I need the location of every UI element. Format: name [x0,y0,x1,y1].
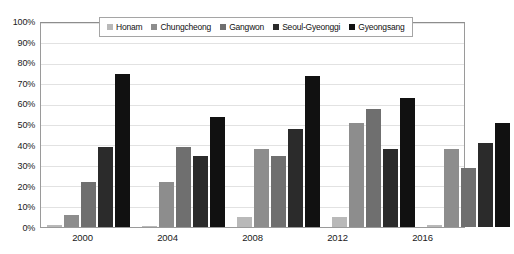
x-axis-tick-label: 2016 [380,232,465,250]
legend-item[interactable]: Seoul-Gyeonggi [273,22,340,32]
x-axis-tick-label: 2004 [125,232,210,250]
gridline [41,227,464,228]
legend-swatch-icon [349,24,355,30]
bar[interactable] [305,76,320,227]
bar-group [136,23,231,227]
bar[interactable] [176,147,191,227]
bar[interactable] [64,215,79,227]
bar[interactable] [461,168,476,227]
bar-group [326,23,421,227]
bar[interactable] [427,225,442,227]
bar[interactable] [98,147,113,227]
bar[interactable] [444,149,459,227]
bar[interactable] [332,217,347,227]
y-axis-tick-label: 40% [18,141,35,151]
x-axis-tick-label: 2000 [40,232,125,250]
y-axis-tick-label: 70% [18,79,35,89]
bar[interactable] [210,117,225,227]
y-axis-tick-label: 10% [18,202,35,212]
legend-item[interactable]: Honam [107,22,142,32]
bar[interactable] [142,226,157,227]
legend-swatch-icon [220,24,226,30]
x-axis-tick-label: 2012 [295,232,380,250]
y-axis-tick-label: 20% [18,182,35,192]
legend-item[interactable]: Gyeongsang [349,22,404,32]
legend-swatch-icon [273,24,279,30]
bar[interactable] [193,156,208,227]
legend-label: Honam [116,22,142,32]
legend-item[interactable]: Chungcheong [151,22,211,32]
y-axis-tick-label: 90% [18,38,35,48]
bars-layer [41,23,464,227]
y-axis-tick-label: 50% [18,120,35,130]
bar-group [41,23,136,227]
bar[interactable] [159,182,174,227]
y-axis-tick-label: 60% [18,99,35,109]
y-axis-tick-label: 30% [18,161,35,171]
bar[interactable] [254,149,269,227]
legend-label: Gyeongsang [358,22,404,32]
x-axis: 20002004200820122016 [40,232,465,250]
legend-label: Gangwon [229,22,264,32]
bar[interactable] [115,74,130,227]
bar[interactable] [349,123,364,227]
legend-swatch-icon [107,24,113,30]
legend-label: Seoul-Gyeonggi [282,22,340,32]
bar[interactable] [288,129,303,227]
y-axis: 0%10%20%30%40%50%60%70%80%90%100% [0,16,38,230]
bar[interactable] [47,225,62,227]
y-axis-tick-label: 80% [18,58,35,68]
bar[interactable] [271,156,286,227]
bar[interactable] [81,182,96,227]
bar-group [231,23,326,227]
bar[interactable] [495,123,510,227]
legend-item[interactable]: Gangwon [220,22,264,32]
y-axis-tick-label: 0% [22,223,35,233]
plot-area [40,22,465,228]
bar[interactable] [383,149,398,227]
bar[interactable] [237,217,252,227]
legend-swatch-icon [151,24,157,30]
bar-group [421,23,514,227]
legend-label: Chungcheong [160,22,211,32]
bar[interactable] [400,98,415,227]
chart-legend: HonamChungcheongGangwonSeoul-GyeonggiGye… [99,17,413,37]
bar[interactable] [478,143,493,227]
y-axis-tick-label: 100% [13,17,35,27]
x-axis-tick-label: 2008 [210,232,295,250]
bar[interactable] [366,109,381,227]
